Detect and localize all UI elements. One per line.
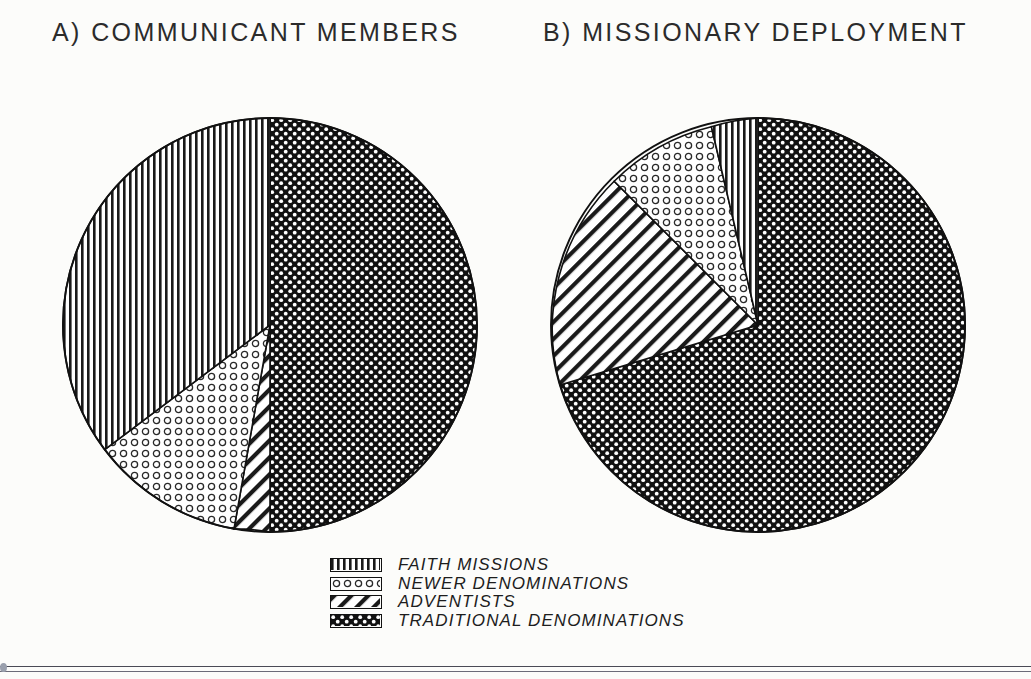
- page-edge-mark: [0, 663, 7, 672]
- legend-label-traditional-denominations: TRADITIONAL DENOMINATIONS: [398, 611, 685, 631]
- footer-rule-top: [0, 666, 1031, 667]
- panel-a-title: A) COMMUNICANT MEMBERS: [52, 18, 460, 47]
- legend-item-traditional-denominations: TRADITIONAL DENOMINATIONS: [330, 612, 760, 631]
- pie-a-slice-traditional: [270, 118, 477, 532]
- legend-swatch-diagonal-hatch-icon: [330, 595, 382, 609]
- legend-swatch-vertical-lines-icon: [330, 558, 382, 572]
- legend-item-faith-missions: FAITH MISSIONS: [330, 556, 760, 575]
- legend-label-faith-missions: FAITH MISSIONS: [398, 555, 549, 575]
- legend-item-newer-denominations: NEWER DENOMINATIONS: [330, 575, 760, 594]
- figure-sheet: A) COMMUNICANT MEMBERS B) MISSIONARY DEP…: [0, 0, 1031, 679]
- pie-chart-a: [63, 118, 477, 532]
- legend: FAITH MISSIONS NEWER DENOMINATIONS ADVEN…: [330, 556, 760, 630]
- legend-item-adventists: ADVENTISTS: [330, 593, 760, 612]
- legend-label-newer-denominations: NEWER DENOMINATIONS: [398, 574, 629, 594]
- legend-swatch-checkered-dots-icon: [330, 614, 382, 628]
- titles-row: A) COMMUNICANT MEMBERS B) MISSIONARY DEP…: [0, 18, 1031, 62]
- legend-swatch-small-circles-icon: [330, 577, 382, 591]
- footer-rule-bottom: [0, 671, 1031, 672]
- panel-b-title: B) MISSIONARY DEPLOYMENT: [543, 18, 968, 47]
- legend-label-adventists: ADVENTISTS: [398, 592, 516, 612]
- pie-chart-b: [551, 118, 965, 532]
